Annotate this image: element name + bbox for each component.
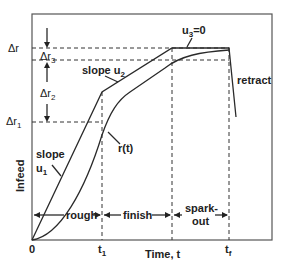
label-slope-u1-a: slope <box>36 148 65 160</box>
slope-u2-leader <box>105 76 118 82</box>
grinding-infeed-diagram: Δr Δr3 Δr2 Δr1 slope u2 u3=0 retract r(t… <box>0 0 289 270</box>
arrowhead <box>174 212 180 218</box>
arrowhead <box>44 116 50 122</box>
x-axis-label: Time, t <box>145 248 181 260</box>
arrowhead <box>104 212 110 218</box>
label-u3: u3=0 <box>182 24 206 39</box>
label-slope-u2: slope u2 <box>82 64 126 79</box>
label-dr2: Δr2 <box>40 87 56 102</box>
slope-u1-leader <box>52 165 61 176</box>
arrowhead <box>44 62 50 68</box>
arrowhead <box>222 212 228 218</box>
label-dr: Δr <box>8 42 19 54</box>
r-t-leader <box>108 132 120 144</box>
phase-rough: rough <box>66 209 97 221</box>
arrowhead <box>44 42 50 48</box>
phase-sparkout-2: out <box>192 215 209 227</box>
phase-finish: finish <box>123 209 153 221</box>
label-slope-u1-b: u1 <box>36 162 48 177</box>
y-axis-label: Infeed <box>14 160 26 192</box>
arrowhead <box>95 212 101 218</box>
u3-leader <box>187 38 192 47</box>
label-r-t: r(t) <box>118 142 134 154</box>
label-dr1: Δr1 <box>6 115 22 130</box>
label-retract: retract <box>237 74 272 86</box>
x-tick-0: 0 <box>29 243 35 255</box>
arrowhead <box>34 212 40 218</box>
phase-sparkout-1: spark- <box>185 202 218 214</box>
x-tick-t1: t1 <box>98 243 107 258</box>
label-dr3: Δr3 <box>40 50 56 65</box>
x-tick-tf: tf <box>225 243 232 258</box>
arrowhead <box>165 212 171 218</box>
